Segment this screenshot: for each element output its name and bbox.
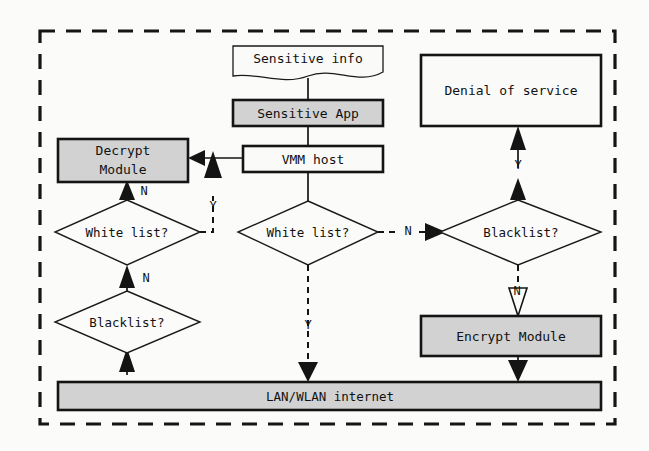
blacklist-left-label: Blacklist? xyxy=(89,315,164,330)
node-whitelist-left[interactable]: White list? xyxy=(55,200,200,265)
node-encrypt-module[interactable]: Encrypt Module xyxy=(421,316,601,356)
sensitive-app-label: Sensitive App xyxy=(257,106,359,121)
flowchart-canvas: N Y N Y N Y N xyxy=(0,0,649,451)
sensitive-info-label: Sensitive info xyxy=(253,51,363,66)
encrypt-module-label: Encrypt Module xyxy=(456,329,566,344)
arrowhead-whitelist-left-yes xyxy=(204,151,222,178)
whitelist-left-label: White list? xyxy=(86,225,169,240)
node-sensitive-app[interactable]: Sensitive App xyxy=(233,100,383,126)
vmm-host-label: VMM host xyxy=(282,152,345,167)
lan-wlan-label: LAN/WLAN internet xyxy=(266,389,394,404)
edge-label-whitelist-left-y: Y xyxy=(209,199,217,213)
node-blacklist-left[interactable]: Blacklist? xyxy=(55,291,200,353)
node-lan-wlan-internet[interactable]: LAN/WLAN internet xyxy=(58,382,601,410)
node-sensitive-info[interactable]: Sensitive info xyxy=(233,46,383,80)
edge-label-blacklist-right-n: N xyxy=(513,284,520,298)
node-whitelist-center[interactable]: White list? xyxy=(238,201,378,265)
node-blacklist-right[interactable]: Blacklist? xyxy=(440,200,601,265)
arrowhead-whitelist-center-yes xyxy=(298,362,318,382)
arrowhead-blacklist-right-yes-up xyxy=(510,126,526,150)
decrypt-module-label-line1: Decrypt xyxy=(96,143,151,158)
edge-label-whitelist-center-y: Y xyxy=(304,318,312,332)
blacklist-right-label: Blacklist? xyxy=(483,225,558,240)
arrowhead-blacklist-right-yes-down xyxy=(510,178,526,200)
node-denial-of-service[interactable]: Denial of service xyxy=(421,55,601,126)
arrowhead-encrypt-to-lan xyxy=(508,360,528,382)
node-decrypt-module[interactable]: Decrypt Module xyxy=(58,139,188,182)
edge-label-whitelist-left-n: N xyxy=(140,184,147,198)
arrowhead-blacklist-left xyxy=(119,265,135,288)
edge-label-whitelist-center-n: N xyxy=(404,224,411,238)
decrypt-module-label-line2: Module xyxy=(100,162,147,177)
flowchart-svg: N Y N Y N Y N xyxy=(0,0,649,451)
denial-of-service-label: Denial of service xyxy=(444,83,577,98)
arrowhead-vmm-to-decrypt xyxy=(188,150,205,166)
edge-label-blacklist-left-n: N xyxy=(142,271,149,285)
edge-label-blacklist-right-y: Y xyxy=(514,158,522,172)
node-vmm-host[interactable]: VMM host xyxy=(243,146,383,172)
whitelist-center-label: White list? xyxy=(267,225,350,240)
